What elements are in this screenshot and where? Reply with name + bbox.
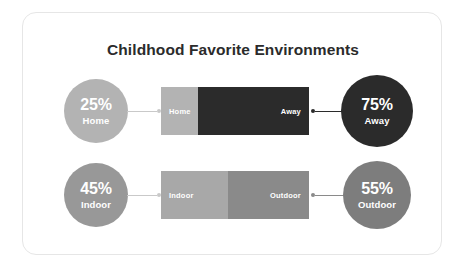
connector-left-indoor	[127, 194, 161, 196]
connector-line	[127, 111, 157, 112]
connector-left-home	[127, 110, 161, 112]
bar-segment-outdoor-label: Outdoor	[270, 191, 301, 200]
comparison-row-home-away: 25% Home Home Away 75% A	[23, 71, 443, 151]
bubble-home[interactable]: 25% Home	[64, 79, 128, 143]
connector-right-outdoor	[311, 194, 345, 196]
bubble-away-label: Away	[364, 116, 389, 126]
bar-segment-home[interactable]: Home	[161, 87, 198, 135]
bar-segment-away[interactable]: Away	[198, 87, 309, 135]
stacked-bar-home-away: Home Away	[161, 87, 309, 135]
bubble-indoor[interactable]: 45% Indoor	[64, 163, 128, 227]
bubble-away[interactable]: 75% Away	[341, 75, 413, 147]
bubble-away-percent: 75%	[361, 97, 392, 113]
stacked-bar-indoor-outdoor: Indoor Outdoor	[161, 171, 309, 219]
bubble-outdoor[interactable]: 55% Outdoor	[343, 161, 411, 229]
chart-card: Childhood Favorite Environments 25% Home…	[22, 12, 442, 255]
bar-segment-indoor[interactable]: Indoor	[161, 171, 228, 219]
bubble-home-label: Home	[83, 116, 110, 126]
comparison-row-indoor-outdoor: 45% Indoor Indoor Outdoor 55%	[23, 155, 443, 235]
infographic-canvas: Childhood Favorite Environments 25% Home…	[0, 0, 464, 272]
bar-segment-away-label: Away	[281, 107, 301, 116]
bubble-indoor-label: Indoor	[81, 200, 111, 210]
bubble-home-percent: 25%	[80, 97, 111, 113]
bubble-indoor-percent: 45%	[80, 181, 111, 197]
bar-segment-outdoor[interactable]: Outdoor	[228, 171, 309, 219]
bubble-outdoor-label: Outdoor	[358, 200, 396, 210]
bubble-outdoor-percent: 55%	[361, 181, 392, 197]
connector-line	[127, 195, 157, 196]
connector-line	[315, 195, 345, 196]
page-title: Childhood Favorite Environments	[23, 41, 443, 59]
bar-segment-indoor-label: Indoor	[169, 191, 194, 200]
connector-right-away	[311, 110, 345, 112]
bar-segment-home-label: Home	[169, 107, 191, 116]
